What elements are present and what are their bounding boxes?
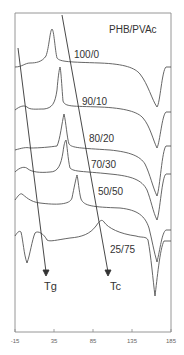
series-label-50-50: 50/50 [98,187,123,197]
curve-25-75 [15,220,171,296]
x-tick-label: 135 [127,338,137,344]
x-tick-label: 85 [90,338,97,344]
tc-label: Tc [110,281,121,292]
series-label-70-30: 70/30 [91,160,116,170]
x-tick-label: 35 [51,338,58,344]
series-label-80-20: 80/20 [89,134,114,144]
series-label-25-75: 25/75 [110,245,135,255]
x-tick-label: 185 [166,338,176,344]
series-label-90-10: 90/10 [82,97,107,107]
series-label-100-0: 100/0 [74,50,99,60]
chart-title: PHB/PVAc [109,25,157,35]
curve-80-20 [15,114,171,196]
x-tick-label: -15 [11,338,20,344]
tg-label: Tg [44,281,57,292]
